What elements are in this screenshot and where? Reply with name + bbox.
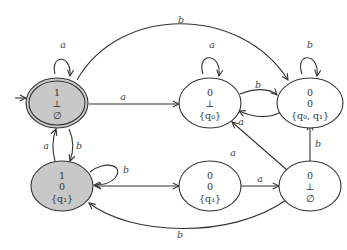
edge-label: b: [177, 229, 183, 240]
edge-n1-n3: [77, 24, 288, 80]
state-line: 1: [54, 87, 60, 98]
state-n1: 1 ⊥ ∅: [26, 78, 88, 128]
state-line: 0: [307, 98, 313, 109]
state-line: {q₀, q₁}: [291, 110, 329, 121]
edge-label: b: [178, 14, 184, 25]
edge-n6-n2: [232, 122, 287, 170]
edge-label: b: [76, 140, 82, 151]
state-line: ∅: [306, 193, 315, 204]
edge-label: a: [230, 147, 236, 158]
state-line: 0: [307, 170, 313, 181]
edge-label: a: [60, 39, 66, 50]
edge-n4-n4: [90, 165, 118, 185]
state-line: ⊥: [53, 98, 62, 109]
state-n5: 0 0 {q₁}: [179, 161, 241, 211]
state-line: ⊥: [206, 98, 215, 109]
edge-label: b: [123, 164, 129, 175]
state-line: {q₁}: [51, 193, 73, 204]
edge-n2-n3: [240, 90, 277, 95]
state-line: {q₀}: [199, 110, 221, 121]
state-diagram: a a b b a a b a b b a a: [0, 0, 347, 250]
state-line: 1: [59, 170, 65, 181]
state-n6: 0 ⊥ ∅: [279, 161, 341, 211]
state-n2: 0 ⊥ {q₀}: [179, 78, 241, 128]
state-line: ⊥: [306, 181, 315, 192]
edge-label: a: [43, 140, 49, 151]
edge-n4-n1: [53, 129, 56, 161]
state-line: 0: [207, 170, 213, 181]
edge-label: b: [307, 39, 313, 50]
state-line: ∅: [53, 110, 62, 121]
edge-label: b: [255, 79, 261, 90]
edge-n6-n4: [89, 200, 286, 229]
edge-n1-n1: [54, 59, 70, 76]
edge-n3-n3: [300, 58, 317, 76]
state-line: {q₁}: [199, 193, 221, 204]
state-line: 0: [207, 181, 213, 192]
edge-n1-n4: [69, 129, 73, 161]
state-n4: 1 0 {q₁}: [31, 161, 93, 211]
edge-label: b: [315, 138, 321, 149]
edge-label: a: [238, 116, 244, 127]
state-line: 0: [207, 87, 213, 98]
edge-n2-n2: [202, 58, 219, 76]
edge-label: a: [120, 91, 126, 102]
edge-label: a: [257, 173, 263, 184]
edge-n3-n2: [239, 111, 281, 116]
state-n3: 0 0 {q₀, q₁}: [277, 78, 343, 128]
state-line: 0: [307, 87, 313, 98]
state-line: 0: [59, 181, 65, 192]
edge-label: a: [209, 39, 215, 50]
